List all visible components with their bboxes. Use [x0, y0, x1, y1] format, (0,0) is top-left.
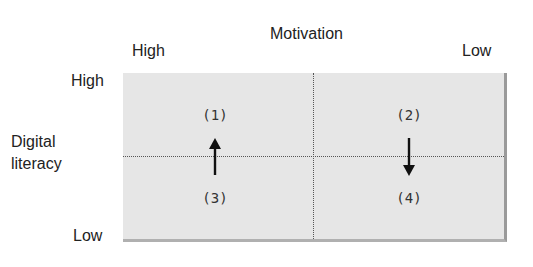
- quadrant-4-label: (4): [396, 190, 421, 206]
- y-axis-title-line2: literacy: [11, 155, 62, 173]
- y-axis-low-label: Low: [73, 227, 102, 245]
- y-axis-title-line1: Digital: [11, 133, 55, 151]
- horizontal-divider: [123, 156, 504, 157]
- arrow-down-icon: [402, 138, 416, 176]
- quadrant-box: (1) (2) (3) (4): [123, 73, 507, 242]
- quadrant-1-label: (1): [202, 107, 227, 123]
- quadrant-3-label: (3): [202, 190, 227, 206]
- x-axis-title: Motivation: [270, 25, 343, 43]
- y-axis-high-label: High: [71, 72, 104, 90]
- quadrant-2-label: (2): [396, 107, 421, 123]
- arrow-up-icon: [208, 138, 222, 176]
- x-axis-high-label: High: [132, 42, 165, 60]
- x-axis-low-label: Low: [462, 42, 491, 60]
